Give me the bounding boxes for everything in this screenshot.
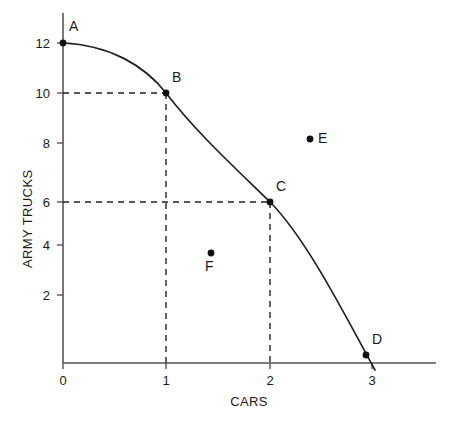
point-marker-f <box>208 250 215 257</box>
y-axis-title: ARMY TRUCKS <box>20 169 35 268</box>
y-axis-ticks <box>57 43 63 295</box>
point-marker-d <box>363 352 370 359</box>
guide-lines-group <box>63 93 270 363</box>
chart-plot-area <box>0 0 452 421</box>
x-axis-ticks <box>63 363 372 369</box>
point-marker-e <box>307 136 314 143</box>
y-tick-label-8: 8 <box>24 136 50 151</box>
point-label-e: E <box>318 130 327 146</box>
data-point-markers <box>60 40 370 359</box>
x-tick-label-1: 1 <box>162 373 169 388</box>
point-label-a: A <box>69 18 78 34</box>
point-label-b: B <box>172 69 181 85</box>
ppf-curve <box>63 43 375 370</box>
point-label-c: C <box>276 178 286 194</box>
y-tick-label-12: 12 <box>24 36 50 51</box>
y-tick-label-2: 2 <box>24 288 50 303</box>
x-tick-label-2: 2 <box>266 373 273 388</box>
x-tick-label-3: 3 <box>368 373 375 388</box>
point-label-f: F <box>205 258 214 274</box>
point-marker-a <box>60 40 67 47</box>
y-tick-label-10: 10 <box>24 86 50 101</box>
chart-figure: 2 4 6 8 10 12 0 1 2 3 A B C D E F CARS A… <box>0 0 452 421</box>
point-marker-b <box>163 90 170 97</box>
x-axis-title: CARS <box>230 394 268 409</box>
axes-group <box>63 13 436 363</box>
point-marker-c <box>267 199 274 206</box>
point-label-d: D <box>372 331 382 347</box>
x-tick-label-0: 0 <box>59 373 66 388</box>
